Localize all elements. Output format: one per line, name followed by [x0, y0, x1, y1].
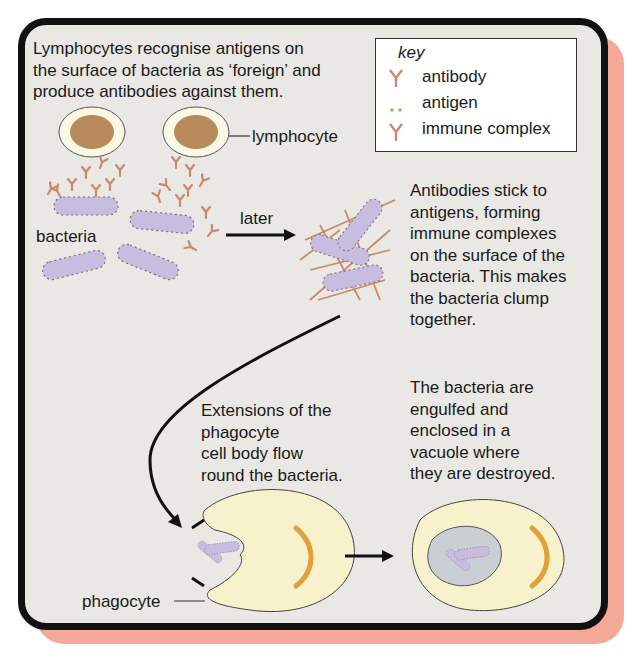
key-title: key	[398, 43, 424, 63]
phagocyte-cell-vacuole	[412, 500, 564, 611]
label-bacteria: bacteria	[36, 226, 96, 248]
intro-text: Lymphocytes recognise antigens on the su…	[33, 38, 321, 103]
lymphocyte-cell-1	[59, 107, 125, 157]
key-item-antigen: antigen	[422, 93, 478, 113]
caption-engulfed: The bacteria are engulfed and enclosed i…	[410, 377, 556, 485]
label-later: later	[240, 208, 273, 230]
label-lymphocyte: lymphocyte	[252, 126, 338, 148]
key-icons	[388, 67, 404, 147]
antigen-icon	[390, 108, 402, 112]
caption-clump: Antibodies stick to antigens, forming im…	[410, 180, 567, 331]
antibody-icon	[390, 70, 402, 87]
label-phagocyte: phagocyte	[82, 591, 160, 613]
lymphocyte-cell-2	[163, 107, 229, 157]
immune-complex-icon	[390, 124, 402, 141]
caption-extensions: Extensions of the phagocyte cell body fl…	[201, 400, 343, 486]
immune-complex-clump	[300, 196, 395, 300]
key-item-antibody: antibody	[422, 67, 486, 87]
key-item-immune-complex: immune complex	[422, 119, 551, 139]
phagocyte-cell-engulfing	[192, 490, 354, 612]
key-legend: key antibody antigen immune complex	[375, 38, 577, 152]
